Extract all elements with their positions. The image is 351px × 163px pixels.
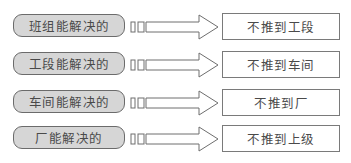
diagram-row-3: 车间能解决的 不推到厂	[0, 89, 351, 117]
source-pill: 车间能解决的	[13, 90, 125, 113]
arrow-right-icon	[129, 51, 221, 79]
source-pill: 工段能解决的	[13, 52, 125, 75]
arrow-right-icon	[129, 125, 221, 153]
diagram-row-4: 厂能解决的 不推到上级	[0, 125, 351, 153]
source-pill: 班组能解决的	[13, 14, 125, 37]
source-pill: 厂能解决的	[13, 126, 125, 149]
target-box: 不推到上级	[222, 125, 340, 152]
diagram-row-1: 班组能解决的 不推到工段	[0, 13, 351, 41]
target-box: 不推到车间	[222, 51, 340, 78]
arrow-right-icon	[129, 13, 221, 41]
target-box: 不推到工段	[222, 13, 340, 40]
diagram-row-2: 工段能解决的 不推到车间	[0, 51, 351, 79]
arrow-right-icon	[129, 89, 221, 117]
target-box: 不推到厂	[222, 89, 340, 116]
